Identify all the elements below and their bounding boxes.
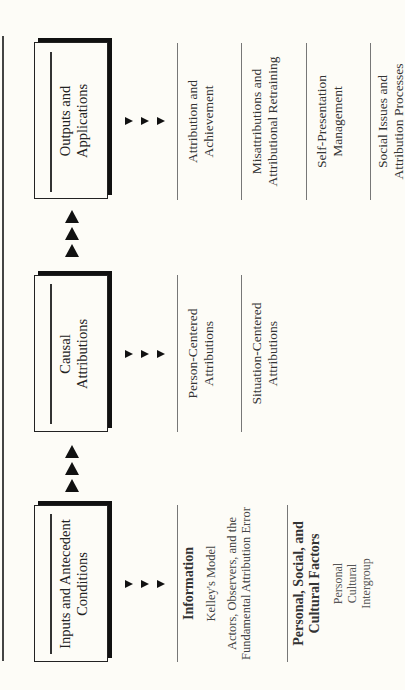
item-divider [241, 43, 242, 200]
left-border-rule [2, 36, 4, 661]
arrow-up-icon [65, 227, 79, 240]
item-divider [370, 43, 371, 200]
arrow-right-icon [125, 580, 133, 588]
outputs-item-3: Self-Presentation Management [311, 43, 349, 200]
causal-item-2: Situation-Centered Attributions [246, 275, 284, 432]
arrow-up-icon [65, 479, 79, 492]
item-divider [306, 43, 307, 200]
arrow-up-icon [65, 445, 79, 458]
inputs-box-title: Inputs and Antecedent Conditions [56, 509, 92, 659]
arrow-right-icon [125, 350, 133, 358]
arrow-up-icon [65, 462, 79, 475]
inputs-item-information: Information Kelley's Model Actors, Obser… [181, 505, 261, 662]
arrow-right-icon [141, 580, 149, 588]
arrow-right-icon [157, 350, 165, 358]
inputs-box-inner-rule [50, 514, 52, 654]
causal-item-1: Person-Centered Attributions [182, 275, 220, 432]
outputs-item-2: Misattributions and Attributional Retrai… [246, 43, 284, 200]
arrow-right-icon [125, 117, 133, 125]
outputs-box-title: Outputs and Applications [56, 46, 92, 196]
causal-box-title: Causal Attributions [56, 279, 92, 429]
arrow-up-icon [65, 244, 79, 257]
item-divider [177, 43, 178, 200]
outputs-box-inner-rule [50, 52, 52, 192]
item-divider [241, 275, 242, 432]
inputs-item-factors: Personal, Social, and Cultural Factors P… [291, 505, 383, 662]
arrow-right-icon [157, 580, 165, 588]
causal-box-inner-rule [50, 284, 52, 424]
arrow-right-icon [157, 117, 165, 125]
arrow-right-icon [141, 117, 149, 125]
arrow-right-icon [141, 350, 149, 358]
item-divider [177, 505, 178, 662]
item-divider [177, 275, 178, 432]
arrow-up-icon [65, 210, 79, 223]
outputs-item-4: Social Issues and Attribution Processes [372, 43, 405, 200]
outputs-item-1: Attribution and Achievement [182, 43, 220, 200]
item-divider [287, 505, 288, 662]
